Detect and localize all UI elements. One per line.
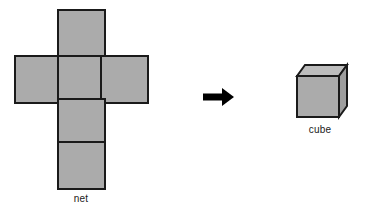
net-square-lower-center [58,99,105,146]
net-label: net [0,193,162,204]
cube-front-face [297,76,339,117]
net-square-middle-left [15,56,62,103]
net-square-middle-center [58,56,105,103]
cube-net-diagram [0,0,373,212]
net-square-top [58,10,105,57]
cube-right-face [339,65,347,117]
arrow-shaft [203,94,224,101]
cube-shape [297,65,347,117]
net-square-bottom-center [58,142,105,189]
net-square-middle-right [101,56,148,103]
cube-label: cube [276,124,364,135]
